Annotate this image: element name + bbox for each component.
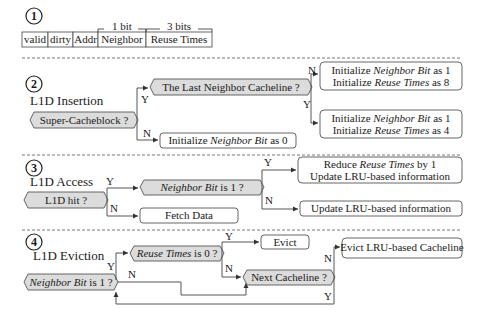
decision-label: Reuse Times is 0 ?: [136, 247, 218, 259]
no-label: N: [308, 64, 316, 76]
no-label: N: [143, 127, 151, 139]
no-label: N: [110, 202, 118, 214]
action-label: Evict LRU-based Cacheline: [340, 241, 464, 253]
field-valid: valid: [24, 33, 46, 45]
yes-label: Y: [107, 260, 115, 272]
decision-label: L1D hit ?: [45, 194, 87, 206]
decision-label: The Last Neighbor Cacheline ?: [162, 81, 300, 93]
action-line-1: Reduce Reuse Times by 1: [324, 158, 436, 170]
yes-label: Y: [303, 98, 311, 110]
decision-label: Neighbor Bit is 1 ?: [28, 276, 112, 288]
section-1-cacheline-format: 1 1 bit 3 bits valid dirty Addr Neighbor…: [22, 8, 212, 47]
no-arrow: [334, 247, 340, 277]
action-line-2: Initialize Reuse Times as 8: [333, 76, 450, 88]
no-label: N: [128, 268, 136, 280]
decision-label: Neighbor Bit is 1 ?: [159, 181, 243, 193]
action-label: Update LRU-based information: [311, 202, 451, 214]
yes-label: Y: [324, 290, 332, 302]
reuse-bits-label: 3 bits: [167, 20, 191, 32]
decision-label: Next Cacheline ?: [251, 271, 327, 283]
yes-label: Y: [264, 156, 272, 168]
section-title: L1D Eviction: [33, 248, 105, 263]
decision-label: Super-Cacheblock ?: [40, 114, 129, 126]
yes-arrow: [311, 87, 318, 123]
no-arrow: [118, 282, 246, 295]
cache-policy-diagram: 1 1 bit 3 bits valid dirty Addr Neighbor…: [0, 0, 484, 320]
action-line-1: Initialize Neighbor Bit as 1: [331, 112, 450, 124]
no-label: N: [324, 252, 332, 264]
field-dirty: dirty: [50, 33, 71, 45]
no-label: N: [265, 194, 273, 206]
action-label: Initialize Neighbor Bit as 0: [168, 134, 288, 146]
action-label: Evict: [273, 236, 296, 248]
section-title: L1D Insertion: [30, 93, 104, 108]
no-label: N: [225, 262, 233, 274]
field-addr: Addr: [74, 33, 97, 45]
field-neighbor: Neighbor: [101, 33, 143, 45]
yes-label: Y: [141, 93, 149, 105]
section-number: 2: [31, 77, 37, 91]
section-number: 1: [31, 9, 37, 23]
yes-arrow: [116, 253, 128, 280]
section-3-l1d-access: 3 L1D Access L1D hit ? Y N Fetch Data Ne…: [24, 156, 462, 223]
neighbor-bit-label: 1 bit: [112, 20, 132, 32]
action-line-2: Update LRU-based information: [310, 170, 450, 182]
yes-label: Y: [106, 175, 114, 187]
section-number: 4: [31, 235, 37, 249]
yes-arrow: [262, 170, 296, 187]
action-line-2: Initialize Reuse Times as 4: [333, 124, 450, 136]
section-title: L1D Access: [30, 174, 93, 189]
section-number: 3: [31, 161, 37, 175]
section-4-l1d-eviction: 4 L1D Eviction Neighbor Bit is 1 ? Y N R…: [24, 230, 464, 304]
yes-label: Y: [225, 230, 233, 242]
action-line-1: Initialize Neighbor Bit as 1: [331, 64, 450, 76]
yes-arrow: [222, 242, 259, 253]
field-reuse-times: Reuse Times: [151, 33, 208, 45]
section-2-l1d-insertion: 2 L1D Insertion Super-Cacheblock ? Y N I…: [26, 62, 462, 148]
yes-arrow: [107, 188, 138, 200]
action-label: Fetch Data: [165, 209, 213, 221]
